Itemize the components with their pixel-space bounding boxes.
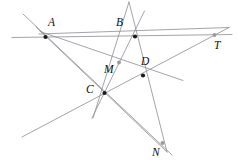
point-label-t: T (214, 40, 220, 52)
point-label-b: B (116, 17, 123, 29)
vertex-point-b (133, 34, 137, 38)
point-label-c: C (86, 84, 94, 96)
vertex-point-m (117, 61, 121, 65)
vertex-point-t (213, 33, 217, 37)
point-label-d: D (141, 56, 149, 68)
geometry-figure: ABTMDCN (0, 0, 238, 167)
points-group (43, 33, 216, 145)
vertex-point-a (43, 35, 47, 39)
point-label-a: A (48, 17, 55, 29)
point-label-m: M (104, 64, 114, 76)
point-label-n: N (152, 147, 160, 159)
vertex-point-n (161, 141, 165, 145)
vertex-point-c (102, 91, 106, 95)
line-lower-left-through-C-D-to-T (22, 28, 229, 138)
vertex-point-d (141, 73, 145, 77)
